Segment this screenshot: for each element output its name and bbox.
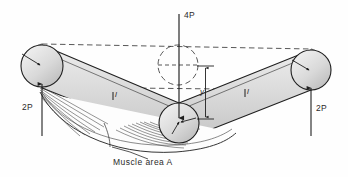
ghost-joint-circle	[158, 45, 198, 85]
label-reaction-left-2p: 2P	[22, 103, 33, 112]
label-segment-left-length: l	[115, 91, 117, 99]
limb-diagram-svg	[0, 0, 348, 177]
label-segment-right-length: l	[247, 88, 249, 96]
label-muscle-area-caption: Muscle area A	[113, 158, 173, 167]
figure-root: 4P 2P 2P l l y Muscle area A	[0, 0, 348, 177]
joint-left-circle	[21, 45, 63, 87]
label-load-4p: 4P	[184, 11, 195, 20]
label-deflection-y: y	[200, 88, 204, 96]
joint-right-circle	[291, 50, 331, 90]
label-reaction-right-2p: 2P	[316, 104, 327, 113]
